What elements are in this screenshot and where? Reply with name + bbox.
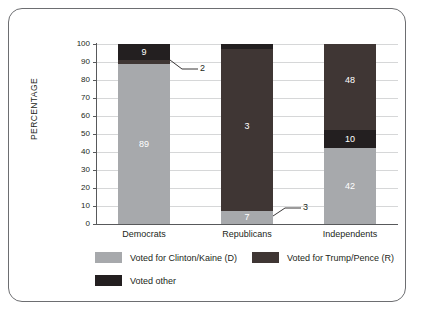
segment-label-independents-trump: 48 xyxy=(324,75,376,85)
segment-republicans-clinton: 7 xyxy=(221,211,273,224)
y-tick-label-30: 30 xyxy=(56,166,90,174)
y-tick-mark-60 xyxy=(93,116,96,117)
legend-swatch-voted-other xyxy=(95,275,122,286)
y-tick-label-40: 40 xyxy=(56,148,90,156)
segment-label-independents-other: 10 xyxy=(324,134,376,144)
stacked-bar-chart: PERCENTAGE 89 9 2 7 xyxy=(0,0,422,318)
legend-swatch-clinton-kaine xyxy=(95,252,122,263)
y-tick-label-50: 50 xyxy=(56,130,90,138)
legend-swatch-trump-pence xyxy=(252,252,279,263)
y-tick-mark-50 xyxy=(93,134,96,135)
y-axis-title: PERCENTAGE xyxy=(29,49,39,169)
segment-label-republicans-trump: 3 xyxy=(221,121,273,131)
y-tick-mark-90 xyxy=(93,62,96,63)
y-tick-label-60: 60 xyxy=(56,112,90,120)
callout-leader-line-republicans xyxy=(273,204,303,220)
y-tick-label-100: 100 xyxy=(56,40,90,48)
y-tick-mark-0 xyxy=(93,224,96,225)
legend-item-trump-pence: Voted for Trump/Pence (R) xyxy=(252,252,394,263)
bar-republicans: 7 3 xyxy=(221,44,273,224)
y-tick-label-0: 0 xyxy=(56,220,90,228)
y-tick-label-20: 20 xyxy=(56,184,90,192)
segment-label-democrats-clinton: 89 xyxy=(118,139,170,149)
segment-independents-other: 10 xyxy=(324,130,376,148)
y-tick-mark-70 xyxy=(93,98,96,99)
segment-democrats-clinton: 89 xyxy=(118,64,170,224)
segment-label-republicans-clinton: 7 xyxy=(221,212,273,222)
x-axis-label-republicans: Republicans xyxy=(192,229,302,239)
y-tick-mark-100 xyxy=(93,44,96,45)
legend-label-trump-pence: Voted for Trump/Pence (R) xyxy=(287,253,394,263)
segment-independents-trump: 48 xyxy=(324,44,376,130)
segment-democrats-other: 9 xyxy=(118,44,170,60)
y-tick-label-70: 70 xyxy=(56,94,90,102)
y-tick-label-10: 10 xyxy=(56,202,90,210)
segment-independents-clinton: 42 xyxy=(324,148,376,224)
segment-label-democrats-other: 9 xyxy=(118,47,170,57)
bar-independents: 42 10 48 xyxy=(324,44,376,224)
chart-legend: Voted for Clinton/Kaine (D) Voted for Tr… xyxy=(0,248,422,294)
segment-republicans-trump: 3 xyxy=(221,49,273,211)
legend-item-voted-other: Voted other xyxy=(95,275,176,286)
y-tick-mark-80 xyxy=(93,80,96,81)
x-axis-label-democrats: Democrats xyxy=(89,229,199,239)
y-tick-mark-20 xyxy=(93,188,96,189)
callout-leader-line-democrats xyxy=(170,57,200,73)
y-tick-label-90: 90 xyxy=(56,58,90,66)
legend-item-clinton-kaine: Voted for Clinton/Kaine (D) xyxy=(95,252,237,263)
x-axis-line xyxy=(96,224,398,225)
bar-democrats: 89 9 xyxy=(118,44,170,224)
y-tick-mark-10 xyxy=(93,206,96,207)
segment-democrats-trump xyxy=(118,60,170,64)
segment-label-independents-clinton: 42 xyxy=(324,181,376,191)
segment-republicans-other xyxy=(221,44,273,49)
y-axis-line xyxy=(96,43,97,225)
legend-label-voted-other: Voted other xyxy=(130,276,176,286)
x-axis-label-independents: Independents xyxy=(295,229,405,239)
y-tick-mark-40 xyxy=(93,152,96,153)
legend-label-clinton-kaine: Voted for Clinton/Kaine (D) xyxy=(130,253,237,263)
y-tick-label-80: 80 xyxy=(56,76,90,84)
callout-label-republicans-other: 3 xyxy=(303,203,308,212)
callout-label-democrats-trump: 2 xyxy=(200,64,205,73)
plot-area: 89 9 2 7 3 3 xyxy=(96,44,398,224)
y-tick-mark-30 xyxy=(93,170,96,171)
